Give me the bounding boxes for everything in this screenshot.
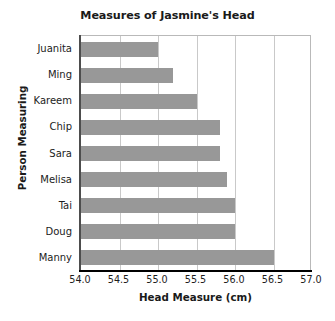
y-axis-line [79, 35, 81, 271]
x-axis-tick-labels: 54.054.555.055.556.056.557.0 [80, 274, 311, 290]
y-tick-label: Doug [45, 225, 72, 236]
y-tick-label: Melisa [40, 173, 72, 184]
y-tick-label: Juanita [37, 43, 72, 54]
y-tick-label: Chip [50, 121, 72, 132]
bar [81, 224, 235, 239]
y-tick-label: Sara [49, 147, 72, 158]
chart-figure: Measures of Jasmine's Head Person Measur… [0, 0, 335, 321]
bar [81, 42, 158, 57]
chart-title: Measures of Jasmine's Head [0, 9, 335, 22]
gridline [274, 36, 275, 270]
x-tick-label: 57.0 [300, 274, 321, 285]
x-tick-label: 54.0 [69, 274, 90, 285]
gridline [235, 36, 236, 270]
bar [81, 198, 235, 213]
y-axis-tick-labels: JuanitaMingKareemChipSaraMelisaTaiDougMa… [0, 35, 76, 270]
bar [81, 94, 197, 109]
x-tick-label: 55.5 [185, 274, 206, 285]
x-tick-label: 56.0 [223, 274, 244, 285]
x-axis-title: Head Measure (cm) [80, 291, 311, 303]
y-tick-label: Ming [48, 69, 72, 80]
x-axis-line [79, 270, 312, 272]
y-tick-label: Manny [39, 251, 72, 262]
plot-area [80, 35, 311, 270]
bar [81, 172, 227, 187]
x-tick-label: 55.0 [146, 274, 167, 285]
y-tick-label: Tai [59, 199, 72, 210]
y-tick-label: Kareem [34, 95, 72, 106]
bar [81, 250, 274, 265]
bar [81, 68, 173, 83]
x-tick-label: 54.5 [108, 274, 129, 285]
x-tick-label: 56.5 [262, 274, 283, 285]
bar [81, 120, 220, 135]
bar [81, 146, 220, 161]
